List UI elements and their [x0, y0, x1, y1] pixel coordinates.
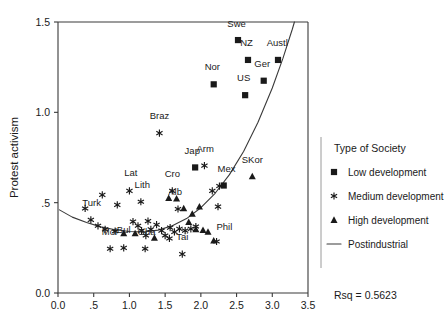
legend-marker: [331, 216, 338, 223]
data-point-label: Austl: [267, 37, 288, 48]
data-point-marker: [180, 205, 187, 212]
legend-item-label: Medium development: [348, 191, 444, 202]
data-point-marker: [201, 162, 207, 169]
data-point-label: Swe: [227, 18, 245, 29]
data-point-marker: [249, 173, 256, 180]
x-tick-label: 2.5: [229, 299, 244, 311]
x-tick-label: 1.0: [122, 299, 137, 311]
data-point-marker: [156, 130, 162, 137]
x-tick-label: 3.5: [301, 299, 316, 311]
legend-item-label: Low development: [348, 167, 427, 178]
x-tick-label: 3.0: [265, 299, 280, 311]
plot-axes: [58, 22, 308, 293]
data-point-marker: [192, 164, 198, 170]
x-tick-label: 2.0: [194, 299, 209, 311]
data-point-label: Lith: [135, 179, 150, 190]
x-tick-label: 1.5: [158, 299, 173, 311]
x-axis: 0.0.51.01.52.02.53.03.5: [51, 293, 316, 311]
data-point-marker: [179, 251, 185, 258]
data-point-marker: [162, 232, 168, 239]
legend-item-label: Postindustrial: [348, 239, 408, 250]
x-tick-label: 0.0: [51, 299, 66, 311]
x-tick-label: .5: [89, 299, 98, 311]
data-point-label: SKor: [242, 154, 263, 165]
data-point-label: Arm: [196, 143, 214, 154]
data-point-marker: [126, 187, 132, 194]
data-point-marker: [175, 205, 181, 212]
rsq-annotation: Rsq = 0.5623: [334, 289, 397, 301]
data-point-marker: [242, 92, 248, 98]
y-tick-label: 1.5: [35, 16, 50, 28]
data-point-label: Gha: [138, 226, 157, 237]
y-axis: 0.0.51.01.5Protest activism: [8, 16, 58, 299]
y-tick-label: 0.0: [35, 287, 50, 299]
y-tick-label: 1.0: [35, 106, 50, 118]
series-medium-development: BrazArmLatLithCroAlbTurkMolBulGhaTaiPhil: [82, 110, 232, 258]
data-point-marker: [185, 218, 192, 225]
data-point-label: US: [237, 72, 250, 83]
data-point-label: Phil: [217, 221, 233, 232]
annotation: Rsq = 0.5623: [334, 289, 397, 301]
data-point-marker: [215, 203, 221, 210]
data-point-label: Mol: [102, 226, 117, 237]
y-tick-label: .5: [41, 197, 50, 209]
data-point-marker: [138, 198, 144, 205]
data-point-label: NZ: [240, 37, 253, 48]
data-point-label: Cro: [165, 168, 180, 179]
legend-title: Type of Society: [334, 142, 407, 154]
data-point-marker: [275, 57, 281, 63]
data-point-marker: [211, 81, 217, 87]
data-point-marker: [261, 78, 267, 84]
data-point-marker: [145, 217, 151, 224]
data-point-label: Turk: [82, 197, 101, 208]
legend-marker: [331, 169, 337, 175]
data-point-label: Nor: [205, 61, 220, 72]
data-point-label: Lat: [124, 167, 138, 178]
axis-lines: [58, 22, 308, 293]
data-point-marker: [245, 57, 251, 63]
legend: Type of SocietyLow developmentMedium dev…: [321, 137, 444, 268]
data-point-marker: [189, 210, 196, 217]
data-point-marker: [192, 226, 199, 233]
data-point-marker: [114, 201, 120, 208]
data-point-label: Tai: [176, 231, 188, 242]
chart-figure: 0.0.51.01.52.02.53.03.50.0.51.01.5Protes…: [0, 0, 446, 335]
scatter-plot: 0.0.51.01.52.02.53.03.50.0.51.01.5Protes…: [0, 0, 446, 335]
data-point-marker: [88, 216, 94, 223]
data-point-marker: [200, 226, 207, 233]
data-point-marker: [166, 235, 172, 242]
data-point-label: Braz: [150, 110, 170, 121]
data-point-marker: [142, 245, 148, 252]
legend-item-label: High development: [348, 215, 429, 226]
data-point-label: Mex: [218, 163, 236, 174]
data-point-marker: [107, 245, 113, 252]
y-axis-title: Protest activism: [8, 117, 20, 198]
legend-marker: [331, 192, 337, 199]
data-point-label: Ger: [254, 58, 270, 69]
data-point-label: Alb: [168, 186, 182, 197]
data-point-marker: [121, 244, 127, 251]
